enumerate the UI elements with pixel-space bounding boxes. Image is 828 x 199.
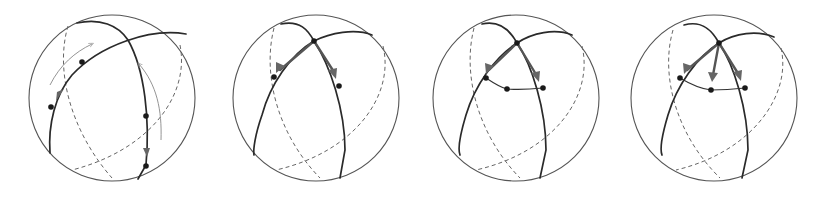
point (677, 75, 683, 81)
sphere-panel-3 (433, 15, 599, 181)
sphere-outline (631, 15, 797, 181)
back-arc-right (72, 45, 182, 170)
point (79, 59, 85, 65)
point (540, 85, 546, 91)
point (48, 104, 54, 110)
point (742, 85, 748, 91)
back-arc-left (669, 30, 720, 178)
midpoint (504, 86, 510, 92)
arrow-head-left (683, 63, 692, 74)
sphere-panel-2 (233, 15, 399, 181)
sphere-outline (29, 15, 195, 181)
sphere-panel-1 (29, 15, 195, 181)
point (143, 113, 149, 119)
arrow-head-right (143, 148, 150, 157)
tangent-vector-right (517, 43, 537, 76)
front-arc-b (254, 32, 372, 155)
vertex-point (311, 38, 317, 44)
front-arc-b (50, 33, 186, 153)
front-arc-a (77, 21, 147, 179)
arrow-head-middle (708, 72, 718, 82)
vertex-point (716, 40, 722, 46)
motion-arrow-left (50, 44, 92, 85)
point (336, 83, 342, 89)
back-arc-left (270, 28, 320, 178)
point (143, 163, 149, 169)
midpoint (708, 87, 714, 93)
sphere-panel-4 (631, 15, 797, 181)
point (271, 74, 277, 80)
tangent-vector-right (314, 41, 334, 72)
vertex-point (514, 40, 520, 46)
point (483, 75, 489, 81)
tangent-vector-right (719, 43, 739, 75)
sphere-diagram-figure (0, 0, 828, 199)
back-arc-left (470, 28, 520, 178)
front-arc-b (459, 32, 572, 155)
tangent-vector-left (280, 41, 314, 70)
back-arc-left (63, 26, 112, 178)
front-arc-a (281, 23, 345, 178)
arrow-head-left (56, 89, 64, 101)
